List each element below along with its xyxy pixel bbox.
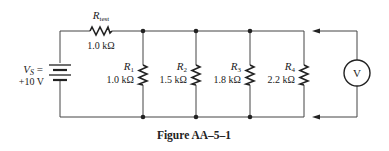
voltmeter-label: V [353,67,361,79]
rtest-value: 1.0 kΩ [87,40,114,51]
r1-label: R1 [123,60,135,74]
resistor-r4-icon [300,65,308,85]
battery-icon [49,65,71,80]
r3-label: R3 [230,60,242,74]
r4-label: R4 [284,60,296,74]
r1-value: 1.0 kΩ [107,74,134,85]
r2-label: R2 [176,60,188,74]
resistor-r3-icon [246,65,254,85]
resistor-r2-icon [192,65,200,85]
resistor-rtest-icon [90,27,112,35]
figure-caption: Figure AA–5–1 [157,129,231,142]
r2-value: 1.5 kΩ [160,74,187,85]
r3-value: 1.8 kΩ [214,74,241,85]
rtest-label: Rtest [92,9,110,23]
probe-arrow-bottom [312,115,320,120]
circuit-diagram: VS = +10 V Rtest 1.0 kΩ R1 1.0 kΩ R2 1.5… [0,0,389,151]
r4-value: 2.2 kΩ [268,74,295,85]
source-label: VS = [23,63,43,77]
probe-arrow-top [312,29,320,34]
resistor-r1-icon [139,65,147,85]
source-value: +10 V [19,76,45,87]
